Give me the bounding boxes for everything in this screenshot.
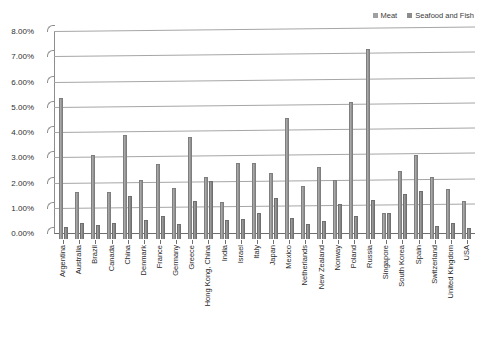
axis-depth-tick xyxy=(47,202,55,209)
bar-group xyxy=(281,37,297,239)
bar-seafood-and-fish xyxy=(161,216,165,239)
x-axis-tick xyxy=(120,240,136,244)
x-axis-tick xyxy=(314,240,330,244)
tick-mark xyxy=(241,240,242,244)
x-axis-label-slot: Norway xyxy=(330,245,346,325)
bar-group xyxy=(443,37,459,239)
legend-label-meat: Meat xyxy=(381,12,398,20)
tick-mark xyxy=(322,240,323,244)
x-axis-label-slot: South Korea xyxy=(394,245,410,325)
axis-depth-tick xyxy=(47,76,55,83)
bar-meat xyxy=(382,213,386,240)
y-axis-tick-label: 5.00% xyxy=(0,102,34,111)
x-axis-label-slot: Argentina xyxy=(55,245,71,325)
x-axis-label-slot: Australia xyxy=(71,245,87,325)
axis-depth-tick xyxy=(47,25,55,32)
x-axis-tick xyxy=(378,240,394,244)
x-axis-label-slot: China xyxy=(120,245,136,325)
bar-group xyxy=(87,37,103,239)
x-axis-tick xyxy=(55,240,71,244)
x-axis-tick-label: Canada xyxy=(108,245,116,271)
x-axis-tick-label: Australia xyxy=(75,245,83,274)
x-axis-tick-label: Spain xyxy=(415,245,423,264)
x-axis-label-slot: Israel xyxy=(233,245,249,325)
x-axis-tick xyxy=(297,240,313,244)
bar-seafood-and-fish xyxy=(403,194,407,239)
bar-seafood-and-fish xyxy=(354,216,358,239)
bar-meat xyxy=(285,118,289,239)
bar-group xyxy=(71,37,87,239)
axis-depth-tick xyxy=(47,101,55,108)
tick-mark xyxy=(128,240,129,244)
x-axis-label-slot: New Zealand xyxy=(314,245,330,325)
bar-group xyxy=(103,37,119,239)
x-axis-tick xyxy=(233,240,249,244)
bar-group xyxy=(362,37,378,239)
x-axis-tick xyxy=(168,240,184,244)
x-axis-label-slot: Singapore xyxy=(378,245,394,325)
bar-meat xyxy=(398,171,402,239)
bar-group xyxy=(459,37,475,239)
tick-mark xyxy=(208,240,209,244)
x-axis-label-slot: Hong Kong, China xyxy=(200,245,216,325)
x-axis-tick-label: Greece xyxy=(189,245,197,270)
bar-group xyxy=(346,37,362,239)
bar-meat xyxy=(220,202,224,239)
legend-label-seafood-and-fish: Seafood and Fish xyxy=(415,12,474,20)
x-axis-label-slot: Denmark xyxy=(136,245,152,325)
tick-mark xyxy=(225,240,226,244)
x-axis-tick xyxy=(443,240,459,244)
tick-mark xyxy=(160,240,161,244)
x-axis-tick xyxy=(184,240,200,244)
x-axis-tick xyxy=(217,240,233,244)
x-axis-label-slot: USA xyxy=(459,245,475,325)
bar-seafood-and-fish xyxy=(435,226,439,239)
bar-group xyxy=(120,37,136,239)
tick-mark xyxy=(419,240,420,244)
tick-mark xyxy=(176,240,177,244)
bar-meat xyxy=(236,163,240,239)
bar-meat xyxy=(91,155,95,239)
bar-series-container xyxy=(55,37,475,239)
legend-entry-seafood-and-fish: Seafood and Fish xyxy=(407,12,474,20)
bar-seafood-and-fish xyxy=(451,223,455,239)
x-axis-label-slot: Japan xyxy=(265,245,281,325)
x-axis-tick xyxy=(394,240,410,244)
x-axis-tick-label: Russia xyxy=(366,245,374,268)
bar-group xyxy=(297,37,313,239)
tick-mark xyxy=(435,240,436,244)
tick-mark xyxy=(402,240,403,244)
bar-meat xyxy=(366,49,370,239)
bar-meat xyxy=(107,192,111,239)
x-axis-label-slot: Russia xyxy=(362,245,378,325)
bar-seafood-and-fish xyxy=(112,223,116,239)
x-axis-tick-label: Singapore xyxy=(382,245,390,279)
bar-seafood-and-fish xyxy=(193,201,197,239)
bar-seafood-and-fish xyxy=(274,198,278,239)
x-axis-label-slot: Spain xyxy=(410,245,426,325)
x-axis-tick xyxy=(427,240,443,244)
x-axis-tick-label: Mexico xyxy=(286,245,294,269)
x-axis-tick xyxy=(281,240,297,244)
x-axis-tick-label: Switzerland xyxy=(431,245,439,284)
tick-mark xyxy=(305,240,306,244)
x-axis-tick-label: Poland xyxy=(350,245,358,268)
x-axis-tick xyxy=(330,240,346,244)
bar-group xyxy=(136,37,152,239)
x-axis-tick-label: Italy xyxy=(253,245,261,259)
bar-meat xyxy=(414,155,418,239)
bar-seafood-and-fish xyxy=(257,213,261,239)
x-axis-tick-label: South Korea xyxy=(399,245,407,287)
legend-swatch-icon xyxy=(373,13,378,18)
x-axis-label-slot: India xyxy=(217,245,233,325)
x-axis-tick-label: Netherlands xyxy=(302,245,310,285)
bar-group xyxy=(265,37,281,239)
bar-meat xyxy=(252,163,256,239)
bar-group xyxy=(217,37,233,239)
x-axis-ticks xyxy=(55,240,475,244)
bar-meat xyxy=(188,137,192,239)
tick-mark xyxy=(63,240,64,244)
bar-meat xyxy=(123,135,127,239)
bar-seafood-and-fish xyxy=(290,218,294,239)
x-axis-label-slot: Brazil xyxy=(87,245,103,325)
